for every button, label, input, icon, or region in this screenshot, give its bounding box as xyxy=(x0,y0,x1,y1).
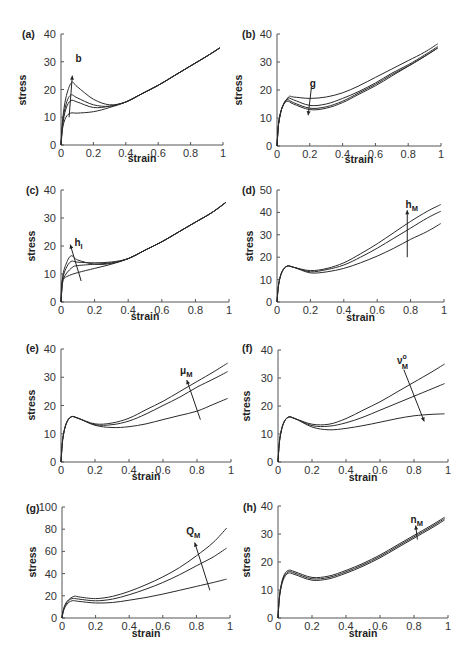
x-tick-label: 0 xyxy=(275,620,281,632)
panel-label: (b) xyxy=(242,28,255,40)
y-tick-label: 20 xyxy=(261,556,273,568)
y-tick-label: 0 xyxy=(50,139,56,151)
parameter-label: νoM xyxy=(397,353,408,371)
x-axis-title: strain xyxy=(349,627,378,639)
panel-label: (d) xyxy=(242,184,255,196)
y-axis-title: stress xyxy=(25,230,37,261)
arrowhead-icon xyxy=(70,76,74,80)
y-tick-label: 100 xyxy=(39,501,57,513)
curve-h2 xyxy=(61,203,226,302)
y-tick-label: 10 xyxy=(260,112,272,124)
parameter-label: QM xyxy=(186,526,200,540)
y-tick-label: 40 xyxy=(261,500,273,512)
figure-canvas: (a)01020304000.20.40.60.81stressstrainb(… xyxy=(0,0,470,659)
x-tick-label: 1 xyxy=(441,304,447,316)
y-tick-label: 40 xyxy=(261,344,273,356)
y-tick-label: 0 xyxy=(266,140,272,152)
arrowhead-icon xyxy=(186,380,190,384)
curve-nuM3 xyxy=(278,364,445,462)
panel-e: (e)01020304000.20.40.60.81stressstrainμM xyxy=(25,342,234,482)
curve-h4 xyxy=(61,203,226,302)
curve-QM3 xyxy=(62,528,227,618)
parameter-arrow xyxy=(308,87,311,115)
panel-d: (d)0102030405000.20.40.60.81stressstrain… xyxy=(242,184,447,323)
x-tick-label: 0.2 xyxy=(304,464,319,476)
y-tick-label: 30 xyxy=(44,212,56,224)
curve-QM2 xyxy=(62,548,227,618)
y-tick-label: 0 xyxy=(266,296,272,308)
curve-h1 xyxy=(61,203,226,302)
curve-nM1 xyxy=(278,520,445,618)
x-axis-title: strain xyxy=(345,153,374,165)
x-tick-label: 0.8 xyxy=(403,304,418,316)
arrowhead-icon xyxy=(405,210,409,214)
curve-g4 xyxy=(277,48,438,146)
x-tick-label: 0 xyxy=(275,464,281,476)
x-tick-label: 0.2 xyxy=(88,620,103,632)
y-axis-title: stress xyxy=(232,74,244,105)
curve-muM2 xyxy=(61,372,228,462)
y-tick-label: 30 xyxy=(260,56,272,68)
x-tick-label: 0.8 xyxy=(189,620,204,632)
y-axis-title: stress xyxy=(243,230,255,261)
panel-a: (a)01020304000.20.40.60.81stressstrainb xyxy=(16,28,226,164)
parameter-arrow xyxy=(195,543,210,591)
x-axis-title: strain xyxy=(349,471,378,483)
x-tick-label: 0.2 xyxy=(87,304,102,316)
parameter-label: g xyxy=(310,78,316,89)
y-tick-label: 0 xyxy=(50,296,56,308)
x-tick-label: 1 xyxy=(438,148,444,160)
y-tick-label: 10 xyxy=(260,274,272,286)
curve-muM1 xyxy=(61,398,228,462)
x-axis-title: strain xyxy=(346,311,375,323)
panel-label: (c) xyxy=(26,184,39,196)
curve-hM3 xyxy=(277,205,441,302)
y-tick-label: 20 xyxy=(45,590,57,602)
panel-label: (f) xyxy=(242,342,253,354)
curve-muM3 xyxy=(61,363,228,462)
x-tick-label: 0 xyxy=(58,147,64,159)
x-tick-label: 0.8 xyxy=(406,620,421,632)
x-tick-label: 1 xyxy=(226,304,232,316)
curve-hM2 xyxy=(277,211,441,302)
y-tick-label: 20 xyxy=(44,84,56,96)
x-axis-title: strain xyxy=(132,470,161,482)
x-tick-label: 0.2 xyxy=(86,147,101,159)
y-tick-label: 20 xyxy=(260,84,272,96)
y-tick-label: 80 xyxy=(45,523,57,535)
y-tick-label: 20 xyxy=(261,400,273,412)
y-tick-label: 30 xyxy=(261,372,273,384)
y-tick-label: 30 xyxy=(44,371,56,383)
y-tick-label: 40 xyxy=(260,28,272,40)
y-tick-label: 10 xyxy=(44,428,56,440)
y-tick-label: 10 xyxy=(44,111,56,123)
panel-b: (b)01020304000.20.40.60.81stressstraing xyxy=(232,28,444,165)
y-tick-label: 10 xyxy=(44,268,56,280)
y-axis-title: stress xyxy=(240,390,252,421)
curve-nM3 xyxy=(278,517,445,618)
panel-label: (g) xyxy=(26,502,39,514)
parameter-label: hI xyxy=(74,237,82,251)
parameter-arrow xyxy=(404,370,424,422)
y-tick-label: 60 xyxy=(45,545,57,557)
y-tick-label: 30 xyxy=(260,229,272,241)
x-tick-label: 0 xyxy=(274,148,280,160)
curve-nM2 xyxy=(278,519,445,618)
y-tick-label: 0 xyxy=(267,612,273,624)
y-tick-label: 10 xyxy=(261,428,273,440)
curve-g2 xyxy=(277,47,438,146)
y-tick-label: 10 xyxy=(261,584,273,596)
y-tick-label: 0 xyxy=(51,612,57,624)
figure-grid: (a)01020304000.20.40.60.81stressstrainb(… xyxy=(0,0,470,659)
panel-label: (a) xyxy=(22,28,35,40)
y-tick-label: 20 xyxy=(44,240,56,252)
x-tick-label: 0.8 xyxy=(401,148,416,160)
x-tick-label: 0.2 xyxy=(87,464,102,476)
x-tick-label: 0 xyxy=(58,304,64,316)
panel-f: (f)01020304000.20.40.60.81stressstrainνo… xyxy=(240,342,451,483)
x-tick-label: 1 xyxy=(445,464,451,476)
y-axis-title: stress xyxy=(240,546,252,577)
x-tick-label: 0 xyxy=(59,620,65,632)
y-tick-label: 0 xyxy=(267,456,273,468)
x-tick-label: 1 xyxy=(228,464,234,476)
